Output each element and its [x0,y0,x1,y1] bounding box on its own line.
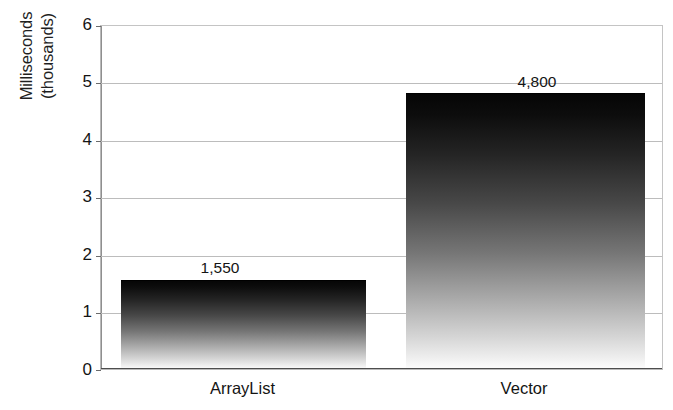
bar-vector[interactable] [406,93,645,369]
data-label-arraylist: 1,550 [178,260,262,276]
category-label-vector: Vector [385,378,663,398]
y-tick-label-2: 2 [48,246,92,263]
y-tick-label-6: 6 [48,16,92,33]
bar-arraylist-top-edge [121,280,366,281]
data-label-vector: 4,800 [495,74,579,90]
category-label-arraylist: ArrayList [100,378,385,398]
y-tick-label-1: 1 [48,303,92,320]
y-tick-mark-5 [96,83,101,84]
bar-arraylist[interactable] [121,280,366,369]
y-axis-tick-labels: 6 5 4 3 2 1 0 [40,0,92,410]
y-axis-title-line1: Milliseconds [16,12,37,101]
y-tick-label-4: 4 [48,131,92,148]
y-tick-mark-4 [96,141,101,142]
y-tick-mark-1 [96,313,101,314]
bar-vector-top-edge [406,93,645,94]
y-tick-label-0: 0 [48,361,92,378]
bar-chart: Milliseconds (thousands) 6 5 4 3 2 1 0 [0,0,673,410]
y-tick-mark-2 [96,256,101,257]
y-tick-label-3: 3 [48,188,92,205]
y-tick-mark-0 [96,370,101,371]
x-axis-line [101,368,662,369]
y-tick-label-5: 5 [48,73,92,90]
y-tick-mark-3 [96,198,101,199]
x-axis-category-labels: ArrayList Vector [100,378,663,404]
y-tick-mark-6 [96,26,101,27]
